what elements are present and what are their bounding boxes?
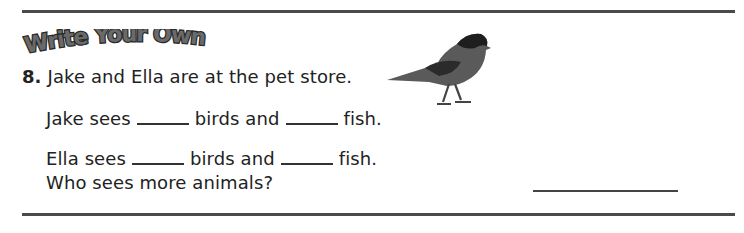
jake-who: Jake sees	[46, 108, 131, 129]
svg-text:Write Your Own: Write Your Own	[22, 29, 206, 58]
prompt-text: Jake and Ella are at the pet store.	[48, 66, 353, 87]
jake-end: fish.	[344, 108, 382, 129]
banner-label: Write Your Own	[22, 29, 206, 58]
ella-end: fish.	[339, 148, 377, 169]
jake-mid: birds and	[195, 108, 280, 129]
ella-who: Ella sees	[46, 148, 126, 169]
answer-line[interactable]	[533, 190, 678, 192]
ella-fish-blank[interactable]	[281, 149, 333, 165]
jake-line: Jake seesbirds andfish.	[46, 108, 382, 129]
top-rule	[22, 10, 735, 13]
question-prompt: 8.Jake and Ella are at the pet store.	[22, 66, 352, 87]
write-your-own-banner: Write Your Own	[22, 29, 218, 59]
ella-mid: birds and	[190, 148, 275, 169]
bottom-rule	[22, 213, 735, 216]
question-number: 8.	[22, 66, 42, 87]
jake-fish-blank[interactable]	[286, 109, 338, 125]
ella-line: Ella seesbirds andfish.	[46, 148, 377, 169]
jake-birds-blank[interactable]	[137, 109, 189, 125]
bird-icon	[385, 24, 495, 110]
ella-birds-blank[interactable]	[132, 149, 184, 165]
question-ask: Who sees more animals?	[46, 172, 273, 193]
